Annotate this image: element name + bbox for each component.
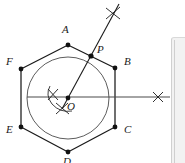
panel-inner-edge	[174, 40, 175, 163]
vertex-dot-f	[19, 67, 24, 72]
label-a: A	[62, 24, 69, 35]
vertex-dot-d	[66, 150, 71, 155]
label-f: F	[6, 56, 13, 67]
arc-mark-upper-right-icon	[106, 7, 120, 19]
arc-mark-center-left-icon	[48, 89, 58, 100]
label-p: P	[97, 44, 104, 55]
label-e: E	[6, 124, 13, 135]
vertex-dot-e	[19, 125, 24, 130]
side-panel	[171, 37, 185, 163]
label-d: D	[63, 156, 71, 163]
vertex-dot-a	[66, 43, 71, 48]
geometry-canvas	[0, 0, 185, 163]
vertex-dot-b	[113, 66, 118, 71]
label-c: C	[124, 124, 131, 135]
vertex-dot-c	[113, 125, 118, 130]
construction-arc-left	[48, 86, 52, 104]
geometry-figure: A B C D E F P O	[0, 0, 185, 163]
point-dot-p	[88, 53, 93, 58]
label-o: O	[67, 101, 75, 112]
label-b: B	[124, 56, 131, 67]
